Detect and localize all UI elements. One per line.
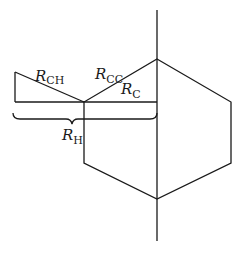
r-h-brace: [13, 113, 157, 124]
label-r-c: RC: [120, 80, 141, 101]
diagram-canvas: RCH RCC RC RH: [0, 0, 242, 255]
label-r-h: RH: [61, 126, 83, 147]
label-r-ch: RCH: [34, 67, 64, 87]
label-r-cc: RCC: [94, 65, 123, 86]
